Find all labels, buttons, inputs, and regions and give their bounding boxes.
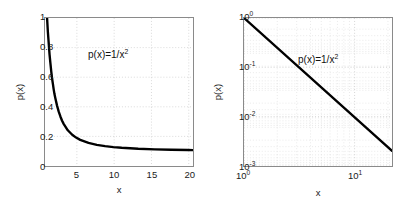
xtick-label-loglog-1: 101	[348, 171, 362, 181]
panel-loglog-axes: 100 10-1 10-2 10-3 100 101 x p(x) p(x)=1…	[203, 0, 406, 203]
xtick-label-linear-0: 5	[74, 170, 79, 180]
curve-inverse-square-linear	[45, 18, 193, 166]
xaxis-title-linear: x	[117, 185, 122, 195]
panel-linear-axes: 0 0.2 0.4 0.6 0.8 1 5 10 15 20	[0, 0, 203, 203]
xtick-label-linear-3: 20	[184, 170, 195, 180]
xtick-label-loglog-0: 100	[236, 171, 250, 181]
annotation-formula-loglog: p(x)=1/x2	[298, 55, 338, 65]
xtick-label-linear-2: 15	[147, 170, 158, 180]
figure-power-law-comparison: 0 0.2 0.4 0.6 0.8 1 5 10 15 20	[0, 0, 406, 203]
xtick-label-linear-1: 10	[109, 170, 120, 180]
plot-area-linear	[44, 17, 194, 167]
annotation-formula-linear: p(x)=1/x2	[88, 50, 128, 60]
yaxis-title-loglog: p(x)	[213, 84, 223, 100]
plot-area-loglog	[243, 17, 393, 167]
curve-inverse-square-loglog	[244, 18, 392, 166]
xaxis-title-loglog: x	[316, 188, 321, 198]
yaxis-title-linear: p(x)	[15, 84, 25, 100]
